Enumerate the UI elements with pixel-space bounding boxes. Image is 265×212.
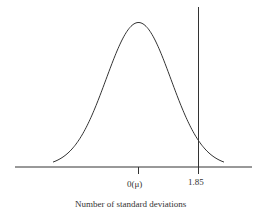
mean-tick-label: 0(μ)	[127, 179, 142, 189]
x-axis-title: Number of standard deviations	[75, 199, 186, 209]
cutoff-tick-label: 1.85	[188, 177, 204, 187]
